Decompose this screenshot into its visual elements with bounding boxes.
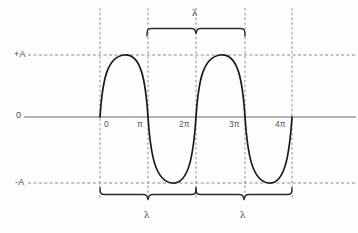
y-tick-label-minus-a: -A <box>15 177 25 187</box>
x-tick-label-0: 0 <box>104 119 109 129</box>
wave-plot-svg <box>0 0 358 233</box>
x-tick-label-4pi: 4π <box>275 119 286 129</box>
y-tick-label-zero: 0 <box>16 110 21 120</box>
x-tick-label-pi: π <box>137 119 143 129</box>
annotation-label-lambda-top: λ <box>192 6 197 18</box>
brace-bottom-left-lambda <box>100 188 196 200</box>
annotation-label-lambda-bottom-right: λ <box>240 208 245 220</box>
brace-bottom-right-lambda <box>196 188 292 200</box>
x-tick-label-3pi: 3π <box>229 119 240 129</box>
brace-top-lambda <box>147 29 245 37</box>
y-tick-label-plus-a: +A <box>14 49 26 59</box>
x-tick-label-2pi: 2π <box>179 119 190 129</box>
annotation-label-lambda-bottom-left: λ <box>144 208 149 220</box>
wave-diagram-figure: +A 0 -A 0 π 2π 3π 4π λ λ λ <box>0 0 358 233</box>
